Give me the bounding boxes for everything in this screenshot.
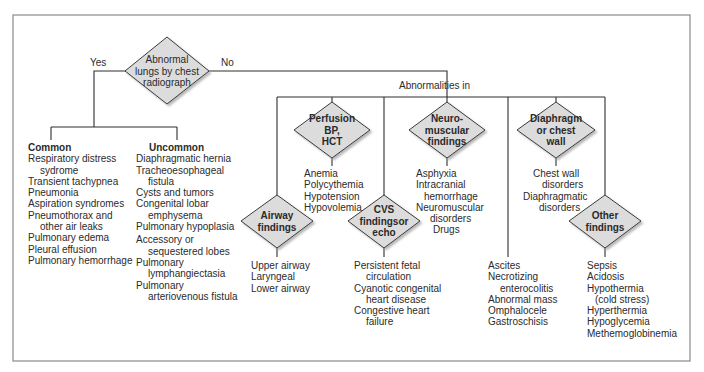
- airway-list: Upper airway Laryngeal Lower airway: [251, 260, 310, 294]
- root-line: radiograph: [127, 77, 207, 89]
- list-item-cont: other air leaks: [28, 221, 133, 232]
- neuromuscular-diamond-label: Neuro- muscular findings: [415, 113, 479, 148]
- list-item: Laryngeal: [251, 271, 310, 282]
- root-line: lungs by chest: [127, 66, 207, 78]
- diaphragm-list: Chest wall disorders Diaphragmatic disor…: [523, 168, 587, 213]
- list-item-cont: sydrome: [28, 165, 133, 176]
- list-item: Tracheoesophageal: [136, 165, 238, 176]
- uncommon-heading: Uncommon: [136, 142, 238, 153]
- list-item: Neuromuscular: [416, 202, 484, 213]
- diamond-line: findings: [575, 222, 635, 234]
- list-item: Pulmonary: [136, 280, 238, 291]
- list-item-cont: enterocolitis: [488, 283, 557, 294]
- list-item: Gastroschisis: [488, 316, 557, 327]
- diamond-line: Diaphragm: [522, 113, 590, 125]
- list-item: Hypovolemia: [304, 202, 363, 213]
- list-item-cont: disorders: [523, 179, 587, 190]
- diamond-line: or chest: [522, 125, 590, 137]
- diamond-line: HCT: [300, 136, 364, 148]
- root-line: Abnormal: [127, 54, 207, 66]
- list-item: Hypoglycemia: [587, 316, 677, 327]
- abnormalities-in-label: Abnormalities in: [399, 80, 470, 91]
- list-item-cont: emphysema: [136, 210, 238, 221]
- list-item-cont: (cold stress): [587, 294, 677, 305]
- list-item: Diaphragmatic hernia: [136, 153, 238, 164]
- list-item: disorders: [416, 213, 484, 224]
- abdominal-list: Ascites Necrotizing enterocolitis Abnorm…: [488, 260, 557, 328]
- list-item: Anemia: [304, 168, 363, 179]
- list-item-cont: hemorrhage: [416, 191, 484, 202]
- list-item: Pulmonary edema: [28, 232, 133, 243]
- list-item: Hypothermia: [587, 283, 677, 294]
- list-item: Persistent fetal: [354, 260, 441, 271]
- list-item: Pneumothorax and: [28, 210, 133, 221]
- list-item: Necrotizing: [488, 271, 557, 282]
- list-item: Accessory or: [136, 234, 238, 245]
- list-item: Drugs: [416, 224, 484, 235]
- common-list: Common Respiratory distress sydrome Tran…: [28, 142, 133, 266]
- diamond-line: Perfusion: [300, 113, 364, 125]
- list-item-cont: disorders: [523, 202, 587, 213]
- diamond-line: Airway: [247, 210, 307, 222]
- diamond-line: echo: [354, 227, 414, 239]
- list-item-cont: heart disease: [354, 294, 441, 305]
- list-item: Ascites: [488, 260, 557, 271]
- diamond-line: findingsor: [354, 216, 414, 228]
- common-heading: Common: [28, 142, 133, 153]
- list-item: Asphyxia: [416, 168, 484, 179]
- list-item: Pulmonary hypoplasia: [136, 221, 238, 232]
- list-item: Hypotension: [304, 191, 363, 202]
- diamond-line: findings: [247, 222, 307, 234]
- list-item-cont: arteriovenous fistula: [136, 291, 238, 302]
- cvs-list: Persistent fetal circulation Cyanotic co…: [354, 260, 441, 328]
- list-item-cont: fistula: [136, 176, 238, 187]
- yes-label: Yes: [90, 57, 106, 68]
- airway-diamond-label: Airway findings: [247, 210, 307, 233]
- perfusion-list: Anemia Polycythemia Hypotension Hypovole…: [304, 168, 363, 213]
- list-item-cont: failure: [354, 316, 441, 327]
- list-item: Pulmonary: [136, 257, 238, 268]
- list-item: Aspiration syndromes: [28, 198, 133, 209]
- list-item-cont: lymphangiectasia: [136, 268, 238, 279]
- list-item: Diaphragmatic: [523, 191, 587, 202]
- other-findings-diamond-label: Other findings: [575, 210, 635, 233]
- diamond-line: Neuro-: [415, 113, 479, 125]
- list-item: Hyperthermia: [587, 305, 677, 316]
- list-item: Polycythemia: [304, 179, 363, 190]
- list-item: Transient tachypnea: [28, 176, 133, 187]
- list-item: Cysts and tumors: [136, 187, 238, 198]
- diamond-line: BP,: [300, 125, 364, 137]
- list-item: Acidosis: [587, 271, 677, 282]
- list-item: Abnormal mass: [488, 294, 557, 305]
- root-question: Abnormal lungs by chest radiograph: [127, 54, 207, 89]
- no-label: No: [221, 57, 234, 68]
- list-item-cont: sequestered lobes: [136, 246, 238, 257]
- list-item: Sepsis: [587, 260, 677, 271]
- list-item: Omphalocele: [488, 305, 557, 316]
- list-item: Pulmonary hemorrhage: [28, 255, 133, 266]
- neuromuscular-list: Asphyxia Intracranial hemorrhage Neuromu…: [416, 168, 484, 236]
- list-item: Pleural effusion: [28, 244, 133, 255]
- yes-connector: [94, 71, 125, 127]
- list-item: Lower airway: [251, 283, 310, 294]
- list-item: Chest wall: [523, 168, 587, 179]
- diamond-line: wall: [522, 136, 590, 148]
- list-item: Intracranial: [416, 179, 484, 190]
- perfusion-diamond-label: Perfusion BP, HCT: [300, 113, 364, 148]
- list-item: Congenital lobar: [136, 198, 238, 209]
- list-item: Upper airway: [251, 260, 310, 271]
- uncommon-list: Uncommon Diaphragmatic hernia Tracheoeso…: [136, 142, 238, 302]
- list-item: Pneumonia: [28, 187, 133, 198]
- list-item-cont: circulation: [354, 271, 441, 282]
- diamond-line: muscular: [415, 125, 479, 137]
- other-findings-list: Sepsis Acidosis Hypothermia (cold stress…: [587, 260, 677, 339]
- list-item: Respiratory distress: [28, 153, 133, 164]
- list-item: Methemoglobinemia: [587, 328, 677, 339]
- list-item: Congestive heart: [354, 305, 441, 316]
- diamond-line: findings: [415, 136, 479, 148]
- list-item: Cyanotic congenital: [354, 283, 441, 294]
- diaphragm-diamond-label: Diaphragm or chest wall: [522, 113, 590, 148]
